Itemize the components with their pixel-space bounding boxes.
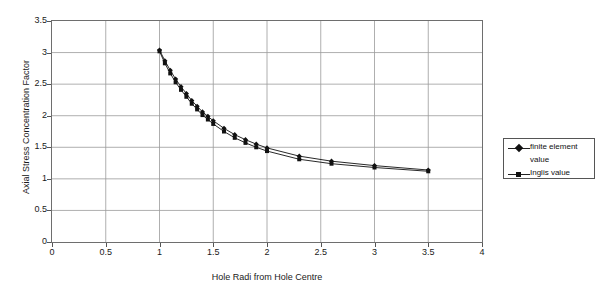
x-axis-tick (321, 243, 322, 247)
x-axis-tick (52, 243, 53, 247)
legend-label-finite-element-cont: value (530, 155, 549, 165)
chart-legend: finite element value Inglis value (503, 138, 595, 179)
x-axis-tick (375, 243, 376, 247)
y-axis-tick (47, 147, 51, 148)
y-tick-label: 1 (7, 173, 47, 183)
y-axis-tick (47, 242, 51, 243)
x-axis-tick (482, 243, 483, 247)
y-axis-tick (47, 210, 51, 211)
chart-canvas (52, 21, 482, 242)
legend-item-finite-element-line2: value (508, 155, 590, 167)
y-tick-label: 3 (7, 47, 47, 57)
y-tick-label: 0 (7, 236, 47, 246)
legend-spacer-icon (508, 156, 530, 167)
y-axis-tick (47, 21, 51, 22)
x-axis-title: Hole Radi from Hole Centre (51, 272, 483, 282)
plot-area (51, 20, 483, 243)
diamond-marker-icon (508, 143, 530, 154)
x-tick-label: 2.5 (301, 247, 341, 257)
x-tick-label: 3.5 (408, 247, 448, 257)
x-axis-tick (160, 243, 161, 247)
y-tick-label: 3.5 (7, 15, 47, 25)
x-axis-tick (213, 243, 214, 247)
y-axis-tick (47, 84, 51, 85)
x-axis-tick (267, 243, 268, 247)
legend-label-finite-element: finite element (530, 142, 578, 152)
x-tick-label: 1.5 (193, 247, 233, 257)
legend-item-inglis: Inglis value (508, 168, 590, 180)
chart-container: Axial Stress Concentration Factor 00.511… (0, 0, 602, 299)
y-axis-title: Axial Stress Concentration Factor (21, 37, 31, 217)
y-axis-tick (47, 179, 51, 180)
y-tick-label: 2 (7, 110, 47, 120)
x-tick-label: 0 (32, 247, 72, 257)
y-tick-label: 0.5 (7, 204, 47, 214)
legend-item-finite-element: finite element (508, 142, 590, 154)
y-tick-label: 2.5 (7, 78, 47, 88)
x-tick-label: 3 (355, 247, 395, 257)
x-axis-tick (106, 243, 107, 247)
x-tick-label: 0.5 (86, 247, 126, 257)
x-axis-tick (428, 243, 429, 247)
legend-label-inglis: Inglis value (530, 168, 570, 178)
y-axis-tick (47, 53, 51, 54)
x-tick-label: 1 (140, 247, 180, 257)
x-tick-label: 2 (247, 247, 287, 257)
y-axis-tick (47, 116, 51, 117)
y-tick-label: 1.5 (7, 141, 47, 151)
x-tick-label: 4 (462, 247, 502, 257)
square-marker-icon (508, 169, 530, 180)
